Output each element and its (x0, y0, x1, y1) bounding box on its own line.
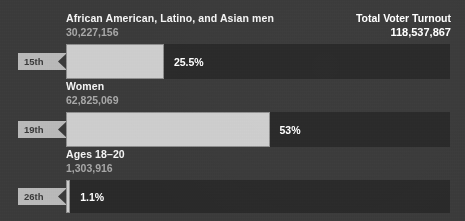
amendment-tag-label-15th: 15th (24, 56, 44, 67)
bar-percent-label-26th: 1.1% (80, 191, 104, 203)
amendment-tag-label-26th: 26th (24, 191, 44, 202)
total-voter-turnout-block: Total Voter Turnout 118,537,867 (356, 12, 451, 39)
group-title-block-15th: African American, Latino, and Asian men … (66, 12, 274, 39)
group-count-15th: 30,227,156 (66, 25, 274, 39)
group-title-block-19th: Women 62,825,069 (66, 80, 119, 107)
group-name-19th: Women (66, 80, 119, 93)
bar-percent-label-15th: 25.5% (174, 56, 204, 68)
bar-track-19th: 53% (66, 112, 450, 147)
total-voter-turnout-value: 118,537,867 (356, 25, 451, 39)
bar-track-26th: 1.1% (66, 180, 450, 213)
group-name-15th: African American, Latino, and Asian men (66, 12, 274, 25)
bar-fill-15th (66, 44, 164, 79)
voter-turnout-infographic: Total Voter Turnout 118,537,867 African … (0, 0, 465, 221)
group-count-19th: 62,825,069 (66, 93, 119, 107)
group-name-26th: Ages 18–20 (66, 148, 125, 161)
group-count-26th: 1,303,916 (66, 161, 125, 175)
total-voter-turnout-label: Total Voter Turnout (356, 12, 451, 25)
amendment-tag-15th: 15th (18, 53, 67, 70)
bar-track-15th: 25.5% (66, 44, 450, 79)
bar-fill-19th (66, 112, 270, 147)
amendment-tag-26th: 26th (18, 188, 67, 205)
bar-fill-26th (66, 180, 70, 213)
amendment-tag-label-19th: 19th (24, 124, 44, 135)
bar-percent-label-19th: 53% (280, 124, 301, 136)
group-title-block-26th: Ages 18–20 1,303,916 (66, 148, 125, 175)
amendment-tag-19th: 19th (18, 121, 67, 138)
